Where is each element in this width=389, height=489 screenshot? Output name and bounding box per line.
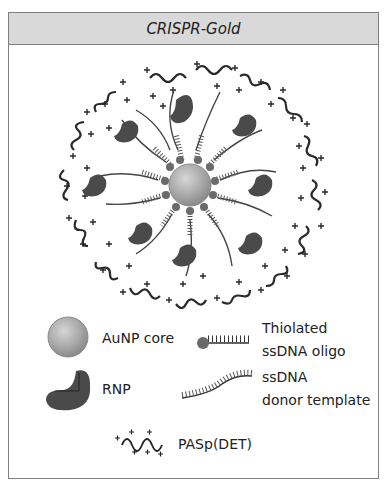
- donor-strand-icon: [182, 373, 252, 398]
- legend-paspdet-label: PASp(DET): [178, 433, 252, 455]
- legend-rnp-label: RNP: [102, 378, 131, 400]
- cationic-polymer-icon: [115, 430, 163, 457]
- aunp-core: [169, 164, 211, 206]
- crispr-gold-nanoparticle-illustration: [0, 0, 389, 489]
- thiolated-oligo-icon: [197, 337, 249, 349]
- legend-thiolated-line1: Thiolated: [262, 317, 327, 339]
- gold-nanoparticle-icon: [48, 317, 88, 357]
- rnp-icon: [46, 370, 90, 410]
- legend-thiolated-line2: ssDNA oligo: [262, 340, 346, 362]
- legend-aunp-label: AuNP core: [102, 327, 174, 349]
- legend-donor-line1: ssDNA: [262, 366, 307, 388]
- legend-donor-line2: donor template: [262, 389, 370, 411]
